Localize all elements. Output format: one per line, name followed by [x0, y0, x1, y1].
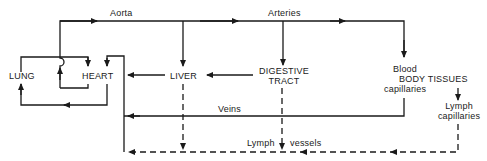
digestive-tract-label: DIGESTIVE TRACT: [258, 66, 310, 86]
veins-line: [124, 98, 404, 116]
body-tissues-label: BODY TISSUES: [399, 74, 468, 84]
blood-label: Blood: [393, 64, 417, 74]
heart-label: HEART: [82, 71, 113, 81]
lung-label: LUNG: [9, 71, 35, 81]
blood-capillaries-label: capillaries: [384, 84, 426, 94]
veins-label: Veins: [218, 104, 241, 114]
pulmonary-vein-line: [21, 57, 88, 72]
pulmonary-artery-line: [21, 84, 107, 105]
lymph-capillaries-label: Lymph capillaries: [436, 101, 482, 121]
aorta-label: Aorta: [110, 8, 133, 18]
lymph-label: Lymph: [247, 138, 275, 148]
vessels-label: vessels: [290, 138, 321, 148]
liver-label: LIVER: [170, 71, 197, 81]
arteries-label: Arteries: [268, 8, 301, 18]
